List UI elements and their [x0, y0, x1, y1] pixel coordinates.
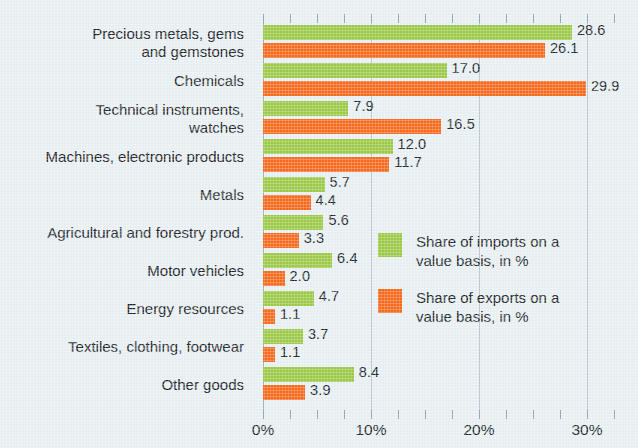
bar-value-label: 7.9 [353, 98, 373, 114]
axis-tick [344, 14, 345, 23]
bar-exports [263, 119, 441, 134]
bar-group: 17.029.9 [263, 62, 614, 100]
bar-exports [263, 43, 545, 58]
bar-exports [263, 385, 305, 400]
category-label: Chemicals [174, 72, 252, 90]
bar-imports [263, 291, 314, 306]
bar-value-label: 1.1 [280, 306, 300, 322]
bar-imports [263, 253, 332, 268]
axis-tick [506, 410, 507, 419]
bar-value-label: 17.0 [452, 60, 481, 76]
bar-value-label: 3.9 [310, 382, 330, 398]
axis-tick [479, 410, 480, 419]
bar-exports [263, 81, 586, 96]
category-label: Energy resources [126, 300, 252, 318]
axis-tick [263, 14, 264, 23]
legend-entry: Share of imports on a value basis, in % [378, 232, 628, 270]
category-label-row: Precious metals, gems and gemstones [0, 24, 252, 62]
bar-value-label: 29.9 [591, 78, 620, 94]
value-axis-tick-label: 30% [571, 421, 602, 439]
legend-entry: Share of exports on a value basis, in % [378, 288, 628, 326]
value-axis-tick-label: 0% [252, 421, 274, 439]
axis-tick [533, 14, 534, 23]
axis-tick [398, 14, 399, 23]
bar-value-label: 26.1 [550, 40, 579, 56]
bar-value-label: 12.0 [398, 136, 427, 152]
category-label-row: Machines, electronic products [0, 138, 252, 176]
bar-group: 28.626.1 [263, 24, 614, 62]
category-label-row: Energy resources [0, 290, 252, 328]
category-label-row: Agricultural and forestry prod. [0, 214, 252, 252]
bar-imports [263, 367, 354, 382]
axis-tick [560, 14, 561, 23]
bar-imports [263, 25, 572, 40]
value-axis-tick-label: 10% [355, 421, 386, 439]
category-label: Textiles, clothing, footwear [68, 338, 252, 356]
bar-chart: Precious metals, gems and gemstonesChemi… [0, 0, 638, 448]
category-label: Motor vehicles [147, 262, 252, 280]
category-label-row: Metals [0, 176, 252, 214]
bar-value-label: 11.7 [394, 154, 422, 170]
plot-area: 28.626.117.029.97.916.512.011.75.74.45.6… [263, 14, 614, 410]
bar-imports [263, 215, 323, 230]
legend-swatch-exports [378, 289, 402, 313]
axis-tick [290, 410, 291, 419]
bar-value-label: 6.4 [337, 250, 357, 266]
bar-value-label: 16.5 [446, 116, 475, 132]
bar-value-label: 5.7 [330, 174, 350, 190]
category-label: Other goods [161, 376, 252, 394]
bar-group: 7.916.5 [263, 100, 614, 138]
axis-tick [614, 410, 615, 419]
category-label: Precious metals, gems and gemstones [92, 25, 252, 61]
bar-value-label: 4.4 [316, 192, 336, 208]
bar-value-label: 3.7 [308, 326, 328, 342]
axis-tick [614, 14, 615, 23]
bar-value-label: 8.4 [359, 364, 379, 380]
bar-value-label: 2.0 [290, 268, 310, 284]
category-label-row: Technical instruments, watches [0, 100, 252, 138]
bar-imports [263, 63, 447, 78]
axis-tick [587, 410, 588, 419]
axis-tick [371, 410, 372, 419]
axis-tick [452, 14, 453, 23]
bar-imports [263, 139, 393, 154]
bar-value-label: 28.6 [577, 22, 606, 38]
category-label: Agricultural and forestry prod. [47, 224, 252, 242]
axis-tick [479, 14, 480, 23]
axis-tick [344, 410, 345, 419]
legend-label: Share of imports on a value basis, in % [416, 232, 559, 270]
axis-tick [425, 410, 426, 419]
bar-group: 5.74.4 [263, 176, 614, 214]
bar-value-label: 4.7 [319, 288, 339, 304]
category-label-row: Motor vehicles [0, 252, 252, 290]
axis-tick [533, 410, 534, 419]
bar-exports [263, 157, 389, 172]
axis-tick [425, 14, 426, 23]
bar-value-label: 1.1 [280, 344, 300, 360]
legend-label: Share of exports on a value basis, in % [416, 288, 559, 326]
bar-exports [263, 233, 299, 248]
bar-exports [263, 309, 275, 324]
category-label: Metals [200, 186, 252, 204]
category-label: Machines, electronic products [46, 148, 252, 166]
axis-tick [560, 410, 561, 419]
bar-group: 12.011.7 [263, 138, 614, 176]
bar-imports [263, 177, 325, 192]
category-label: Technical instruments, watches [96, 101, 252, 137]
bar-group: 8.43.9 [263, 366, 614, 404]
axis-tick [398, 410, 399, 419]
axis-tick [452, 410, 453, 419]
bar-exports [263, 271, 285, 286]
axis-tick [371, 14, 372, 23]
legend-swatch-imports [378, 233, 402, 257]
category-label-row: Other goods [0, 366, 252, 404]
bar-imports [263, 329, 303, 344]
axis-tick [317, 14, 318, 23]
bar-exports [263, 195, 311, 210]
bar-imports [263, 101, 348, 116]
axis-tick [263, 410, 264, 419]
axis-tick [290, 14, 291, 23]
axis-tick [506, 14, 507, 23]
bar-value-label: 3.3 [304, 230, 324, 246]
category-label-row: Chemicals [0, 62, 252, 100]
